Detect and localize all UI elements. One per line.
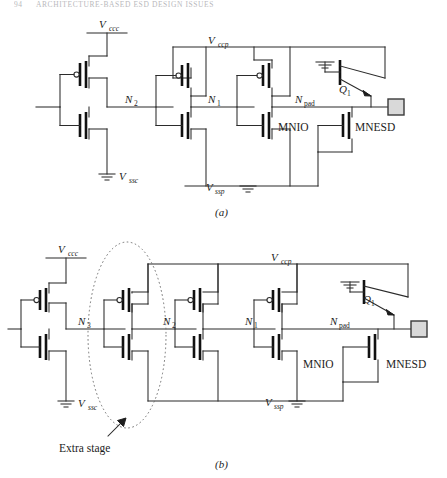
vccp-sub-a: ccp: [218, 40, 229, 49]
n3-label-b: N: [77, 315, 86, 327]
inverter-stage1-a: [156, 47, 254, 186]
n1-sub-a: 1: [217, 99, 221, 108]
nmos-left-b: [8, 303, 125, 401]
caption-a: (a): [215, 206, 228, 219]
extra-stage-label: Extra stage: [59, 442, 110, 455]
output-driver-b: [254, 264, 411, 401]
vssp-label-a: V: [206, 181, 214, 193]
vccp-label-b: V: [271, 251, 279, 263]
vssc-sub-b: ssc: [88, 403, 98, 412]
n1-sub-b: 1: [254, 321, 258, 330]
mnesd-label-b: MNESD: [386, 358, 426, 370]
npad-sub-a: pad: [304, 99, 315, 108]
mnio-label-a: MNIO: [278, 121, 309, 133]
q1-sub-b: 1: [371, 299, 375, 308]
mnesd-a: [318, 107, 352, 186]
mnesd-b: [343, 329, 378, 401]
mnio-label-b: MNIO: [303, 358, 334, 370]
panel-a: V ccc V ccp V ssc V ssp N 2 N 1 N pad MN…: [36, 18, 404, 219]
vccp-label-a: V: [208, 34, 216, 46]
n1-label-b: N: [244, 315, 253, 327]
vccc-label-a: V: [99, 18, 107, 30]
n2-label-b: N: [162, 315, 171, 327]
vssp-rail-a: [185, 186, 318, 192]
n3-sub-b: 3: [87, 321, 91, 330]
figure-svg: V ccc V ccp V ssc V ssp N 2 N 1 N pad MN…: [0, 0, 447, 478]
q1-bjt-a: [316, 47, 385, 107]
extra-stage-ellipse: [88, 242, 166, 428]
vssp-rail-b: [148, 401, 343, 407]
caption-b: (b): [215, 458, 228, 471]
vccc-label-b: V: [58, 243, 66, 255]
vccc-sub-b: ccc: [68, 249, 79, 258]
vssc-sub-a: ssc: [129, 176, 139, 185]
inverter-stage2-b: [175, 264, 275, 401]
extra-stage-inverter-b: [104, 264, 196, 401]
vccc-rail-b: [46, 258, 86, 283]
n2-sub-b: 2: [172, 321, 176, 330]
output-driver-a: [237, 47, 388, 186]
q1-sub-a: 1: [347, 89, 351, 98]
bond-pad-b: [411, 321, 427, 337]
q1-bjt-b: [341, 264, 408, 329]
vccc-rail-a: [87, 33, 127, 56]
npad-label-b: N: [329, 315, 338, 327]
npad-sub-b: pad: [339, 321, 350, 330]
mnesd-label-a: MNESD: [355, 121, 395, 133]
vccp-sub-b: ccp: [281, 257, 292, 266]
nmos-left-a: [36, 78, 173, 174]
vssc-label-a: V: [119, 170, 127, 182]
pmos-left-b: [21, 283, 66, 329]
n1-label-a: N: [207, 93, 216, 105]
panel-b: V ccc V ccp V ssc V ssp N 3 N 2 N 1 N pa…: [8, 242, 427, 471]
vccc-sub-a: ccc: [109, 24, 120, 33]
vssp-sub-b: ssp: [274, 402, 284, 411]
bond-pad-a: [388, 99, 404, 115]
pmos-left-a: [60, 56, 107, 107]
extra-stage-pointer: [108, 418, 126, 436]
q1-label-a: Q: [339, 83, 347, 95]
npad-label-a: N: [294, 93, 303, 105]
vssc-ground-a: [99, 174, 115, 180]
vssc-ground-b: [58, 401, 74, 407]
q1-label-b: Q: [363, 293, 371, 305]
n2-label-a: N: [124, 93, 133, 105]
n2-sub-a: 2: [134, 99, 138, 108]
vssp-sub-a: ssp: [215, 187, 225, 196]
figure-page: 94ARCHITECTURE-BASED ESD DESIGN ISSUES: [0, 0, 447, 478]
vssp-label-b: V: [265, 396, 273, 408]
vssc-label-b: V: [78, 397, 86, 409]
